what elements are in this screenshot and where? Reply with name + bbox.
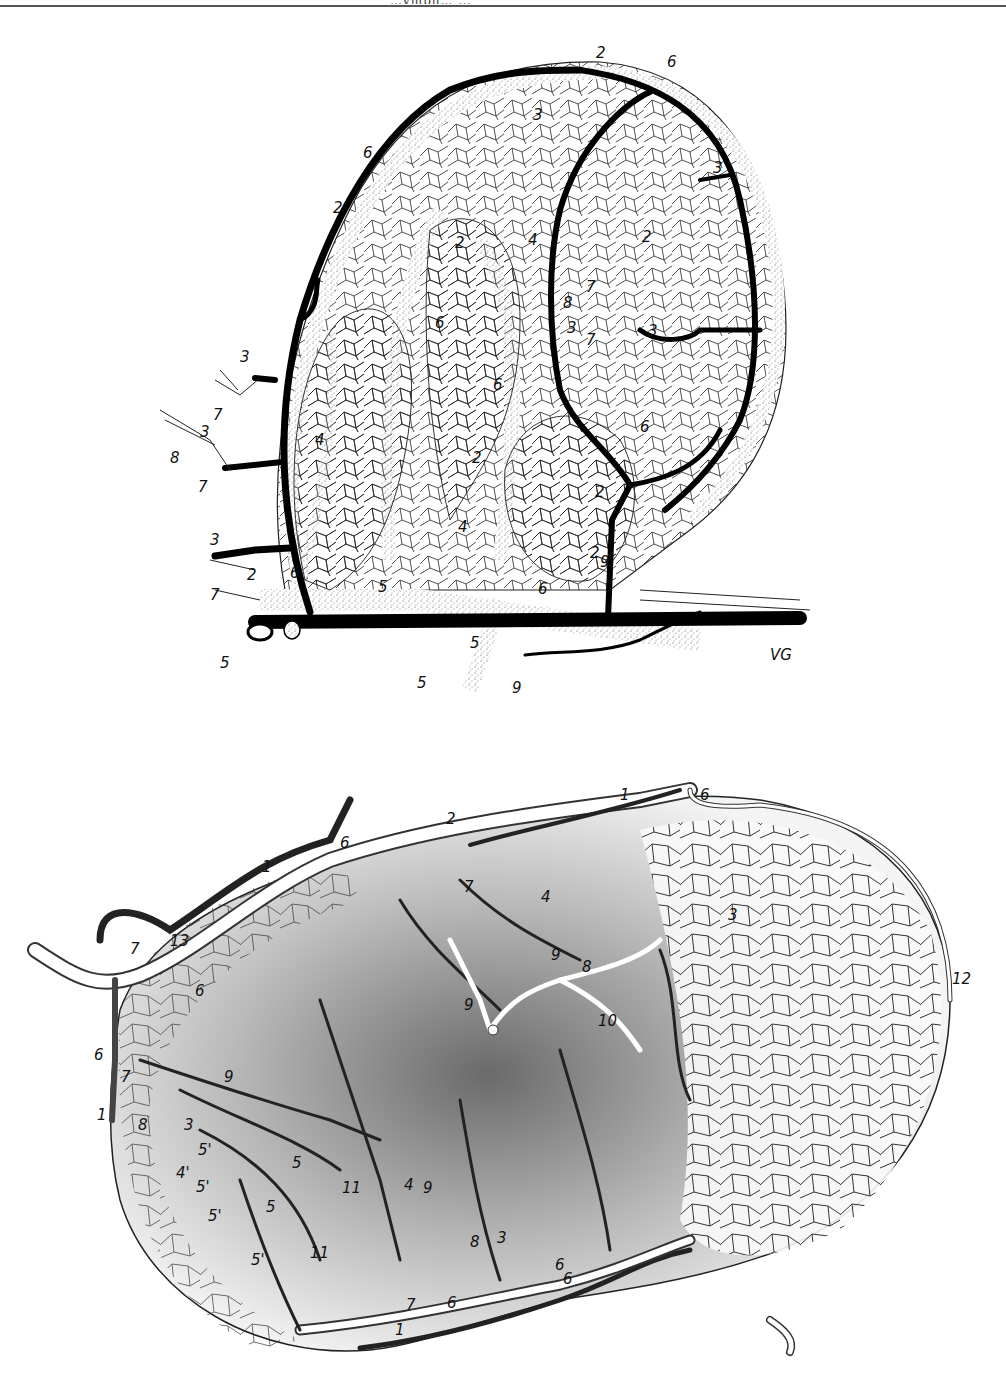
label: 7 — [213, 406, 223, 424]
label: 4 — [315, 431, 325, 449]
label: 3 — [184, 1116, 194, 1134]
label: 7 — [130, 940, 140, 958]
label: 7 — [464, 878, 474, 896]
figure-bottom-drawing: 1 6 6 1 2 7 4 3 7 13 9 8 12 6 9 10 6 7 9… — [25, 780, 985, 1370]
label: 6 — [640, 418, 650, 436]
label: 9 — [423, 1179, 433, 1197]
label: 10 — [598, 1012, 617, 1030]
label: 5' — [251, 1251, 265, 1269]
label: 5 — [220, 654, 230, 672]
label: 6 — [195, 982, 205, 1000]
label: 12 — [952, 970, 971, 988]
label: 1 — [262, 858, 272, 876]
label: 5' — [198, 1141, 212, 1159]
label: 3 — [497, 1229, 507, 1247]
label: 4 — [541, 888, 551, 906]
label: 6 — [700, 786, 710, 804]
label: 3 — [533, 106, 543, 124]
label: 3 — [713, 159, 723, 177]
label: 2 — [595, 483, 605, 501]
label: 3 — [240, 348, 250, 366]
label: 6 — [563, 1270, 573, 1288]
label: 9 — [464, 996, 474, 1014]
label: 6 — [493, 376, 503, 394]
label: 3 — [567, 319, 577, 337]
figure-bottom-vascular-network: 1 6 6 1 2 7 4 3 7 13 9 8 12 6 9 10 6 7 9… — [25, 780, 985, 1370]
label: 5 — [292, 1154, 302, 1172]
label: 11 — [342, 1179, 361, 1197]
label: 8 — [470, 1233, 480, 1251]
label: 2 — [333, 199, 343, 217]
label: 9 — [224, 1068, 234, 1086]
label: 11 — [310, 1244, 329, 1262]
label: 6 — [363, 144, 373, 162]
label: 2 — [446, 810, 456, 828]
label: 6 — [435, 314, 445, 332]
label: 3 — [200, 423, 210, 441]
label: 7 — [210, 586, 220, 604]
label: 1 — [395, 1321, 405, 1339]
label: 9 — [551, 946, 561, 964]
label: 6 — [94, 1046, 104, 1064]
signature: VG — [770, 646, 792, 664]
label: 6 — [447, 1294, 457, 1312]
label: 7 — [586, 278, 596, 296]
figure-top-lymphatic-network: 2 6 3 6 3 2 2 4 2 7 8 3 7 3 6 3 6 6 7 3 … — [150, 40, 830, 700]
label: 8 — [582, 958, 592, 976]
page-header-text: …ymph… … — [390, 0, 471, 4]
label: 8 — [138, 1116, 148, 1134]
label: 7 — [121, 1068, 131, 1086]
label: 4' — [176, 1164, 190, 1182]
label: 5' — [208, 1207, 222, 1225]
label: 6 — [340, 834, 350, 852]
label: 13 — [170, 932, 189, 950]
label: 6 — [290, 564, 300, 582]
label: 2 — [472, 449, 482, 467]
label: 6 — [538, 580, 548, 598]
label: 9 — [512, 679, 522, 697]
label: 2 — [596, 44, 606, 62]
label: 4 — [458, 518, 468, 536]
label: 2 — [455, 234, 465, 252]
label: 4 — [404, 1176, 414, 1194]
label: 1 — [620, 786, 630, 804]
page-header-rule — [0, 5, 1006, 7]
label: 7 — [406, 1296, 416, 1314]
label: 8 — [563, 294, 573, 312]
figure-top-drawing: 2 6 3 6 3 2 2 4 2 7 8 3 7 3 6 3 6 6 7 3 … — [150, 40, 830, 700]
label: 2 — [247, 566, 257, 584]
label: 5 — [266, 1198, 276, 1216]
label: 3 — [648, 322, 658, 340]
label: 8 — [170, 449, 180, 467]
label: 7 — [586, 331, 596, 349]
label: 6 — [667, 53, 677, 71]
label: 3 — [728, 906, 738, 924]
label: 9 — [600, 553, 610, 571]
label: 7 — [198, 478, 208, 496]
label: 5 — [417, 674, 427, 692]
label: 5' — [196, 1178, 210, 1196]
label: 1 — [97, 1106, 107, 1124]
label: 2 — [642, 228, 652, 246]
label: 4 — [528, 231, 538, 249]
label: 5 — [378, 578, 388, 596]
label: 5 — [470, 634, 480, 652]
label: 3 — [210, 531, 220, 549]
label: 2 — [590, 544, 600, 562]
